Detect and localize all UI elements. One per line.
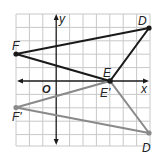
- label-e: E: [103, 66, 112, 80]
- vertex-d: [146, 25, 151, 30]
- coordinate-plane: y x O D F E E' F' D: [0, 0, 158, 156]
- label-e-prime: E': [100, 86, 111, 100]
- label-d-prime: D: [142, 141, 151, 155]
- vertex-d-prime: [146, 130, 151, 135]
- label-f-prime: F': [12, 110, 22, 124]
- label-x-axis: x: [140, 82, 148, 96]
- y-axis-down-arrow-icon: [54, 139, 59, 145]
- y-axis-up-arrow-icon: [54, 14, 59, 20]
- grid: [16, 14, 150, 146]
- label-d: D: [138, 14, 147, 28]
- label-f: F: [12, 39, 20, 53]
- x-axis-left-arrow-icon: [17, 79, 23, 84]
- label-y-axis: y: [58, 12, 66, 26]
- label-origin: O: [42, 83, 51, 95]
